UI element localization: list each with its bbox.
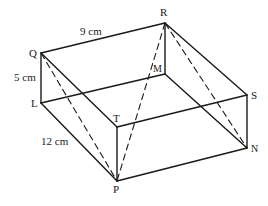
diagonal-RP bbox=[117, 23, 165, 181]
edge-PN bbox=[117, 148, 247, 181]
vertex-label-M: M bbox=[153, 63, 162, 74]
cuboid-diagram: Q R L M T S P N 9 cm 5 cm 12 cm bbox=[0, 0, 268, 206]
vertex-label-L: L bbox=[31, 97, 38, 109]
diagram-canvas: Q R L M T S P N 9 cm 5 cm 12 cm bbox=[0, 0, 268, 206]
vertex-label-R: R bbox=[160, 6, 168, 18]
edge-QT bbox=[41, 53, 117, 127]
edge-TS bbox=[117, 95, 247, 127]
edge-LM bbox=[41, 74, 165, 103]
vertex-label-Q: Q bbox=[29, 47, 37, 59]
vertex-label-N: N bbox=[251, 143, 258, 154]
vertex-label-S: S bbox=[251, 89, 257, 101]
edge-QR bbox=[41, 23, 165, 53]
vertex-label-T: T bbox=[113, 112, 120, 124]
vertex-label-P: P bbox=[113, 183, 119, 195]
dimension-label-LP: 12 cm bbox=[41, 135, 69, 147]
dimension-label-QR: 9 cm bbox=[80, 25, 102, 37]
diagonal-QP bbox=[41, 53, 117, 181]
dimension-label-QL: 5 cm bbox=[14, 71, 36, 83]
